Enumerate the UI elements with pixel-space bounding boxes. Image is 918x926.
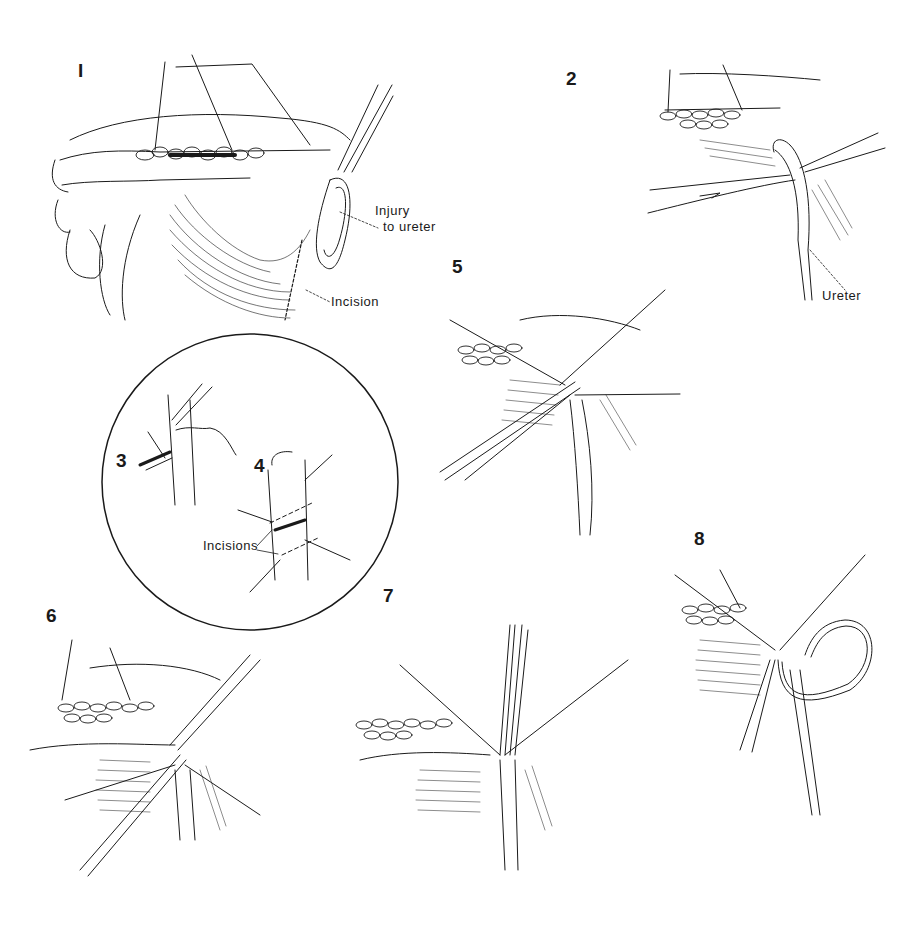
panel-3-4-inset — [102, 334, 398, 630]
ureter-label: Ureter — [822, 288, 861, 304]
panel-5-drawing — [440, 290, 680, 535]
injury-label-line2: to ureter — [375, 219, 436, 235]
panel-1-drawing — [52, 55, 393, 320]
panel-6-number: 6 — [46, 605, 57, 627]
injury-label-line1: Injury — [375, 203, 436, 219]
panel-4-number: 4 — [254, 455, 265, 477]
panel-7-drawing — [356, 625, 628, 870]
panel-8-drawing — [675, 555, 872, 815]
surgical-illustration — [0, 0, 918, 926]
panel-1-number: I — [78, 60, 83, 82]
panel-3-number: 3 — [116, 450, 127, 472]
incision-label: Incision — [331, 294, 379, 310]
panel-7-number: 7 — [383, 585, 394, 607]
injury-to-ureter-label: Injury to ureter — [375, 203, 436, 235]
panel-6-drawing — [30, 640, 260, 876]
panel-2-number: 2 — [566, 68, 577, 90]
panel-2-drawing — [648, 65, 885, 300]
panel-5-number: 5 — [452, 256, 463, 278]
panel-8-number: 8 — [694, 528, 705, 550]
incisions-label: Incisions — [203, 538, 258, 554]
